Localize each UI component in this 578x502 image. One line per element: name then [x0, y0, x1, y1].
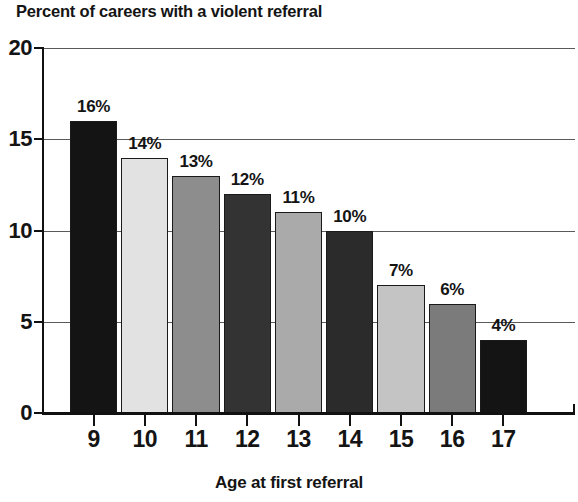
chart-title: Percent of careers with a violent referr… [16, 2, 322, 21]
x-axis-label-16: 16 [440, 426, 465, 453]
bar-age-12 [224, 194, 271, 413]
x-tick-15 [400, 415, 402, 426]
y-axis-label-15: 15 [0, 126, 32, 152]
x-tick-9 [93, 415, 95, 426]
bar-value-label-17: 4% [491, 316, 515, 336]
x-tick-17 [502, 415, 504, 426]
bar-value-label-16: 6% [440, 280, 464, 300]
bar-value-label-12: 12% [231, 170, 264, 190]
y-axis-label-10: 10 [0, 218, 32, 244]
bar-value-label-14: 10% [333, 207, 366, 227]
x-axis-end-cap [573, 404, 575, 415]
bar-age-14 [326, 231, 373, 414]
bar-age-15 [377, 285, 424, 413]
x-axis-label-10: 10 [133, 426, 158, 453]
x-tick-11 [195, 415, 197, 426]
x-tick-12 [246, 415, 248, 426]
x-axis-line [42, 412, 575, 415]
gridline-15 [42, 139, 575, 140]
x-tick-16 [451, 415, 453, 426]
bar-value-label-9: 16% [77, 97, 110, 117]
y-tick-20 [34, 47, 44, 49]
y-tick-10 [34, 230, 44, 232]
bar-age-13 [275, 212, 322, 413]
x-axis-label-14: 14 [337, 426, 362, 453]
bar-value-label-15: 7% [389, 261, 413, 281]
bar-value-label-13: 11% [282, 188, 314, 208]
bar-age-11 [172, 176, 219, 413]
y-axis-label-0: 0 [0, 400, 32, 426]
bar-value-label-11: 13% [179, 152, 212, 172]
bar-age-17 [480, 340, 527, 413]
x-axis-label-9: 9 [87, 426, 99, 453]
x-axis-label-11: 11 [184, 426, 207, 453]
x-axis-label-15: 15 [389, 426, 414, 453]
x-axis-title: Age at first referral [0, 473, 578, 493]
x-axis-label-12: 12 [235, 426, 260, 453]
x-axis-label-17: 17 [491, 426, 516, 453]
y-axis-label-20: 20 [0, 35, 32, 61]
x-tick-10 [144, 415, 146, 426]
bar-age-9 [70, 121, 117, 413]
x-tick-13 [298, 415, 300, 426]
x-tick-14 [349, 415, 351, 426]
gridline-20 [42, 48, 575, 49]
x-axis-label-13: 13 [286, 426, 311, 453]
bar-chart: Percent of careers with a violent referr… [0, 0, 578, 502]
bar-age-10 [121, 158, 168, 414]
y-tick-15 [34, 138, 44, 140]
bar-age-16 [429, 304, 476, 414]
y-tick-5 [34, 321, 44, 323]
y-axis-label-5: 5 [0, 309, 32, 335]
bar-value-label-10: 14% [128, 134, 161, 154]
